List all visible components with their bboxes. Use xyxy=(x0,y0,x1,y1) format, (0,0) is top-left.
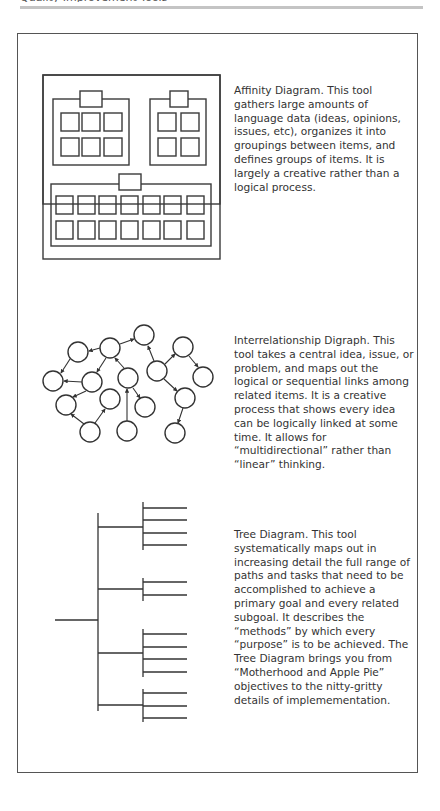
tree-description: Tree Diagram. This tool systematically m… xyxy=(234,528,414,707)
